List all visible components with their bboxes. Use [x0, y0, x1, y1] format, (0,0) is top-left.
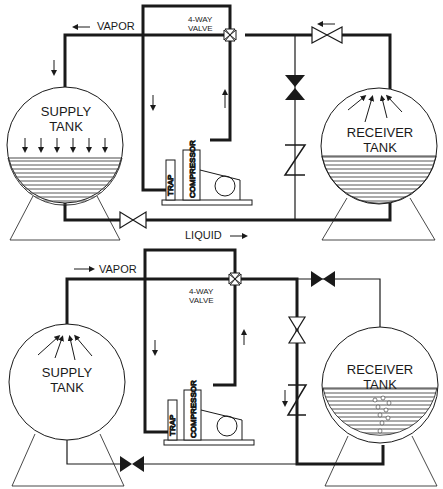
vapor-label: VAPOR [99, 263, 137, 275]
four-way-valve-icon [229, 273, 241, 285]
compressor-unit: TRAP COMPRESSOR [162, 140, 252, 205]
svg-text:TANK: TANK [363, 140, 397, 155]
trap-label: TRAP [168, 415, 177, 436]
svg-text:TANK: TANK [50, 380, 84, 395]
top-panel: SUPPLY TANK RECEIVER TANK [7, 6, 437, 241]
compressor-label: COMPRESSOR [188, 140, 197, 198]
receiver-tank-label: RECEIVER [347, 362, 413, 377]
supply-tank-label: SUPPLY [41, 104, 92, 119]
hand-valve-open-icon [289, 317, 305, 343]
four-way-valve-icon [224, 29, 236, 41]
hand-valve-open-icon [312, 27, 342, 43]
liquid-label: LIQUID [185, 229, 222, 241]
bottom-panel: SUPPLY TANK RECEIVER TANK T [9, 250, 438, 486]
compressor-unit: TRAP COMPRESSOR [164, 380, 254, 445]
svg-text:VALVE: VALVE [188, 24, 213, 33]
refrigerant-transfer-diagram: SUPPLY TANK RECEIVER TANK [0, 0, 443, 489]
four-way-valve-label: 4-WAY [188, 15, 213, 24]
receiver-tank: RECEIVER TANK [322, 327, 438, 486]
receiver-tank-label: RECEIVER [347, 125, 413, 140]
receiver-tank: RECEIVER TANK [321, 88, 437, 240]
trap-label: TRAP [166, 175, 175, 196]
four-way-valve-label: 4-WAY [189, 287, 214, 296]
vapor-label: VAPOR [97, 20, 135, 32]
svg-text:TANK: TANK [49, 119, 83, 134]
svg-text:VALVE: VALVE [189, 296, 214, 305]
liquid-valve-open-icon [120, 212, 146, 228]
svg-text:TANK: TANK [363, 377, 397, 392]
supply-tank-label: SUPPLY [42, 365, 93, 380]
compressor-label: COMPRESSOR [189, 380, 198, 438]
